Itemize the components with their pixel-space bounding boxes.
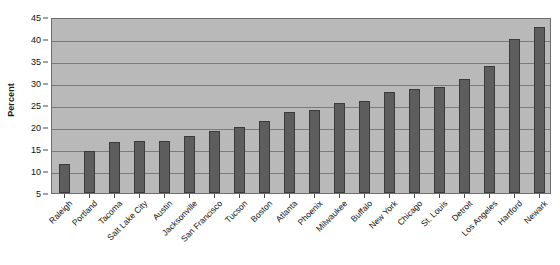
x-tick-mark — [489, 194, 490, 198]
x-tick-mark — [364, 194, 365, 198]
y-tick-label: 45 — [31, 14, 41, 23]
bar — [84, 151, 95, 193]
y-tick-label: 10 — [31, 168, 41, 177]
y-tick-label: 20 — [31, 124, 41, 133]
x-tick-mark — [289, 194, 290, 198]
bar — [284, 112, 295, 193]
y-tick-label: 35 — [31, 58, 41, 67]
x-tick-label: Hartford — [496, 199, 524, 227]
bar — [309, 110, 320, 193]
x-tick-mark — [189, 194, 190, 198]
x-tick-mark — [164, 194, 165, 198]
y-tick-label: 25 — [31, 102, 41, 111]
x-tick-label: Newark — [522, 199, 548, 225]
y-tick-mark — [43, 84, 48, 85]
y-tick-mark — [43, 172, 48, 173]
bar — [334, 103, 345, 193]
x-tick-label: Portland — [70, 199, 98, 227]
x-tick-mark — [339, 194, 340, 198]
bar — [209, 131, 220, 193]
bar-chart: Percent 51015202530354045 RaleighPortlan… — [0, 0, 560, 265]
bar — [484, 66, 495, 193]
bar — [134, 141, 145, 193]
y-tick-mark — [43, 40, 48, 41]
x-tick-label: St. Louis — [419, 199, 448, 228]
x-tick-mark — [139, 194, 140, 198]
x-tick-label: Raleigh — [47, 199, 73, 225]
y-tick-mark — [43, 106, 48, 107]
x-tick-mark — [439, 194, 440, 198]
x-tick-mark — [64, 194, 65, 198]
y-tick-label: 40 — [31, 36, 41, 45]
x-tick-mark — [514, 194, 515, 198]
bar — [434, 87, 445, 193]
bar — [59, 164, 70, 193]
y-axis: 51015202530354045 — [0, 0, 51, 265]
x-tick-mark — [114, 194, 115, 198]
bar — [534, 27, 545, 193]
bar — [459, 79, 470, 193]
x-tick-mark — [539, 194, 540, 198]
x-tick-label: Tucson — [223, 199, 249, 225]
x-tick-mark — [389, 194, 390, 198]
x-tick-mark — [314, 194, 315, 198]
y-tick-label: 15 — [31, 146, 41, 155]
bar — [109, 142, 120, 193]
y-tick-mark — [43, 128, 48, 129]
bars-layer — [52, 19, 550, 193]
bar — [259, 121, 270, 193]
y-tick-mark — [43, 194, 48, 195]
bar — [509, 39, 520, 193]
x-tick-mark — [414, 194, 415, 198]
x-tick-mark — [89, 194, 90, 198]
bar — [384, 92, 395, 193]
y-tick-mark — [43, 62, 48, 63]
bar — [359, 101, 370, 193]
bar — [409, 89, 420, 193]
bar — [234, 127, 245, 193]
bar — [184, 136, 195, 193]
x-tick-label: Austin — [151, 199, 174, 222]
x-tick-label: Boston — [249, 199, 274, 224]
plot-area — [51, 18, 551, 194]
x-tick-mark — [214, 194, 215, 198]
x-axis-labels: RaleighPortlandTacomaSalt Lake CityAusti… — [51, 199, 551, 265]
bar — [159, 141, 170, 193]
y-tick-mark — [43, 18, 48, 19]
x-tick-mark — [264, 194, 265, 198]
y-tick-mark — [43, 150, 48, 151]
y-tick-label: 5 — [36, 190, 41, 199]
y-tick-label: 30 — [31, 80, 41, 89]
x-tick-mark — [239, 194, 240, 198]
x-tick-mark — [464, 194, 465, 198]
